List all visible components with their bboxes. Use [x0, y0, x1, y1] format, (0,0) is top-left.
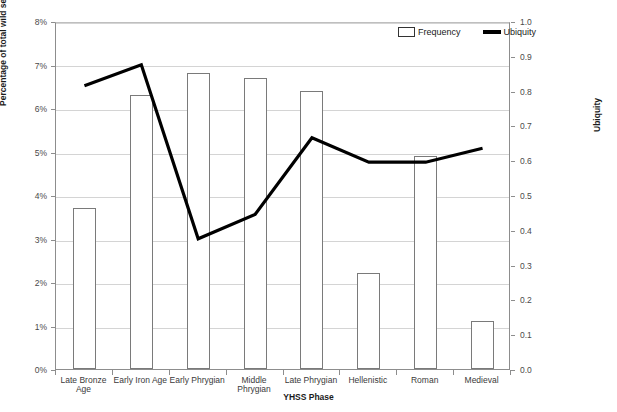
- chart-legend: Frequency Ubiquity: [398, 27, 536, 37]
- y-axis-right-title: Ubiquity: [592, 75, 602, 155]
- y-axis-right-tick-mark: [511, 22, 515, 23]
- y-axis-right-tick-label: 0.8: [520, 88, 550, 97]
- y-axis-right-tick-mark: [511, 300, 515, 301]
- y-axis-right-tick-mark: [511, 266, 515, 267]
- gridline: [56, 371, 509, 372]
- ubiquity-line: [84, 65, 482, 239]
- y-axis-right-tick-label: 0.6: [520, 157, 550, 166]
- legend-bar-swatch-icon: [398, 27, 415, 37]
- y-axis-right-tick-label: 0.0: [520, 366, 550, 375]
- y-axis-left-tick-label: 0%: [17, 366, 47, 375]
- y-axis-left-tick-label: 7%: [17, 62, 47, 71]
- legend-line-swatch-icon: [483, 30, 501, 34]
- y-axis-right-tick-label: 0.9: [520, 53, 550, 62]
- y-axis-left-tick-label: 6%: [17, 105, 47, 114]
- y-axis-right-tick-mark: [511, 92, 515, 93]
- y-axis-right-tick-label: 0.5: [520, 192, 550, 201]
- y-axis-left-tick-label: 4%: [17, 192, 47, 201]
- legend-label-frequency: Frequency: [418, 27, 461, 37]
- legend-item-frequency: Frequency: [398, 27, 461, 37]
- y-axis-right-tick-mark: [511, 161, 515, 162]
- plot-area: [55, 22, 510, 370]
- x-axis-tick-label: Early Phrygian: [169, 376, 226, 385]
- y-axis-right-tick-mark: [511, 57, 515, 58]
- y-axis-right-tick-mark: [511, 370, 515, 371]
- y-axis-left-tick-label: 3%: [17, 236, 47, 245]
- y-axis-right-tick-label: 0.2: [520, 296, 550, 305]
- y-axis-left-title: Percentage of total wild seeds: [0, 0, 8, 125]
- y-axis-left-tick-label: 2%: [17, 279, 47, 288]
- x-axis-title: YHSS Phase: [0, 392, 617, 402]
- y-axis-left-tick-label: 5%: [17, 149, 47, 158]
- y-axis-right-tick-mark: [511, 196, 515, 197]
- chart-container: Percentage of total wild seeds Ubiquity …: [0, 0, 617, 412]
- y-axis-left-tick-label: 8%: [17, 18, 47, 27]
- x-axis-tick-label: Late Bronze Age: [55, 376, 112, 393]
- x-axis-tick-label: Roman: [396, 376, 453, 385]
- y-axis-right-tick-label: 0.3: [520, 262, 550, 271]
- legend-item-ubiquity: Ubiquity: [483, 27, 537, 37]
- y-axis-right-tick-mark: [511, 231, 515, 232]
- x-axis-tick-label: Early Iron Age: [112, 376, 169, 385]
- y-axis-right-tick-label: 0.1: [520, 331, 550, 340]
- y-axis-right-tick-label: 0.7: [520, 122, 550, 131]
- line-series-ubiquity: [56, 23, 511, 371]
- y-axis-left-tick-label: 1%: [17, 323, 47, 332]
- y-axis-right-tick-mark: [511, 126, 515, 127]
- x-axis-tick-label: Late Phrygian: [283, 376, 340, 385]
- x-axis-tick-label: Medieval: [453, 376, 510, 385]
- x-axis-tick-label: Hellenistic: [339, 376, 396, 385]
- y-axis-right-tick-mark: [511, 335, 515, 336]
- y-axis-right-tick-label: 0.4: [520, 227, 550, 236]
- y-axis-right-tick-label: 1.0: [520, 18, 550, 27]
- legend-label-ubiquity: Ubiquity: [504, 27, 537, 37]
- x-axis-tick-label: Middle Phrygian: [226, 376, 283, 393]
